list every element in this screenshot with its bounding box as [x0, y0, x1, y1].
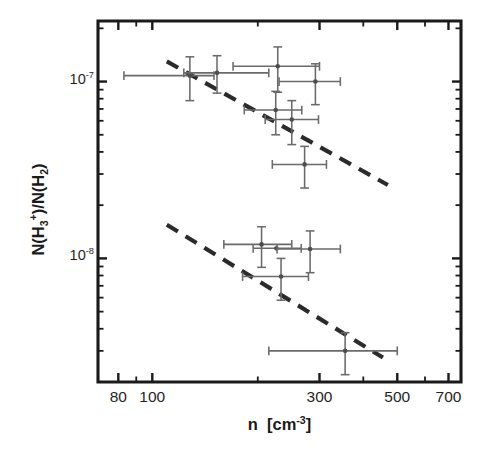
marker [289, 117, 294, 122]
ytick-exp-8: -8 [86, 247, 94, 257]
data-point-lower-branch-3 [243, 258, 309, 300]
marker [343, 349, 348, 354]
ytick-exp-7: -7 [86, 70, 94, 80]
data-point-lower-branch-2 [277, 231, 340, 273]
marker [308, 247, 313, 252]
marker [215, 71, 220, 76]
y-tick-label-1e-8: 10-8 [52, 247, 94, 263]
ylabel-sub-2: 2 [38, 169, 50, 175]
marker [313, 79, 318, 84]
marker [188, 73, 193, 78]
data-point-upper-branch-4 [244, 91, 302, 134]
data-point-upper-branch-2 [233, 47, 319, 92]
marker [302, 162, 307, 167]
y-axis-label-text: N(H3+)/N(H2) [29, 163, 47, 255]
marker [279, 274, 284, 279]
x-axis-label: n [cm-3] [98, 415, 461, 434]
x-tick-label-300: 300 [290, 388, 350, 406]
trend-lines [167, 61, 388, 357]
x-tick-label-700: 700 [418, 388, 478, 406]
data-points [124, 47, 397, 375]
data-point-upper-branch-3 [279, 64, 340, 105]
marker [273, 108, 278, 113]
data-point-upper-branch-6 [272, 146, 326, 188]
y-axis-label: N(H3+)/N(H2) [29, 110, 48, 310]
marker [259, 242, 264, 247]
y-tick-label-1e-7: 10-7 [52, 71, 94, 87]
x-tick-label-100: 100 [122, 388, 182, 406]
data-point-upper-branch-1 [184, 56, 269, 93]
ylabel-sup-plus: + [27, 214, 39, 220]
marker [275, 64, 280, 69]
xlabel-exp: -3 [296, 414, 305, 426]
ylabel-sub-3: 3 [38, 220, 50, 226]
figure-container: N(H3+)/N(H2) n [cm-3] 10-7 10-8 80 100 3… [0, 0, 502, 460]
x-axis-label-text: n [cm-3] [248, 415, 311, 433]
